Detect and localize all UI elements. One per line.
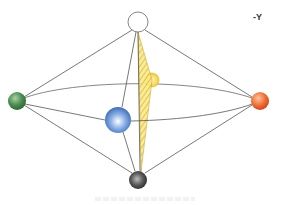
caption-unreadable [95, 197, 195, 201]
front-vertex-sphere [105, 107, 131, 133]
edge-top-front [122, 32, 136, 107]
bottom-vertex-sphere [129, 171, 147, 189]
edge-left-front [25, 104, 105, 120]
octahedron-diagram: -Y [0, 0, 281, 205]
right-vertex-sphere [251, 92, 269, 110]
top-vertex-sphere [128, 12, 148, 32]
diagram-canvas [0, 0, 281, 205]
edge-bottom-right [145, 105, 252, 173]
axis-label: -Y [253, 12, 262, 22]
left-vertex-sphere [8, 92, 26, 110]
edge-bottom-front [123, 132, 135, 171]
equator-front-arc [131, 101, 260, 121]
